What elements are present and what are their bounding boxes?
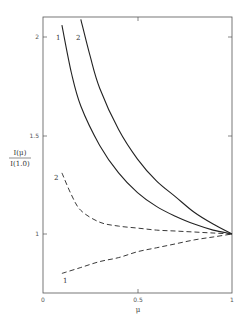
svg-text:1.5: 1.5 bbox=[29, 132, 39, 139]
y-tick-labels: 2 1.5 1 bbox=[29, 33, 39, 237]
label-dashed-1: 1 bbox=[63, 277, 67, 285]
svg-text:I(μ): I(μ) bbox=[14, 149, 27, 157]
chart: 2 1.5 1 0 0.5 1 μ I(μ) I(1.0) 1 2 2 1 bbox=[0, 0, 245, 327]
series-dashed-2 bbox=[62, 173, 232, 234]
svg-text:2: 2 bbox=[35, 33, 39, 40]
x-axis-label: μ bbox=[136, 306, 141, 314]
svg-text:I(1.0): I(1.0) bbox=[10, 160, 30, 168]
plot-frame bbox=[43, 17, 232, 293]
label-dashed-2: 2 bbox=[54, 174, 58, 182]
series-layer bbox=[62, 19, 232, 273]
series-solid-1 bbox=[62, 25, 232, 234]
y-axis-label: I(μ) I(1.0) bbox=[9, 149, 31, 168]
svg-text:0.5: 0.5 bbox=[133, 296, 143, 303]
x-tick-labels: 0 0.5 1 bbox=[41, 296, 234, 303]
svg-text:0: 0 bbox=[41, 296, 45, 303]
label-solid-1: 1 bbox=[56, 34, 60, 42]
svg-text:1: 1 bbox=[230, 296, 234, 303]
series-solid-2 bbox=[81, 19, 232, 234]
svg-text:1: 1 bbox=[35, 230, 39, 237]
series-dashed-1 bbox=[62, 234, 232, 273]
curve-labels: 1 2 2 1 bbox=[54, 34, 80, 285]
label-solid-2: 2 bbox=[76, 34, 80, 42]
ticks bbox=[43, 17, 232, 293]
